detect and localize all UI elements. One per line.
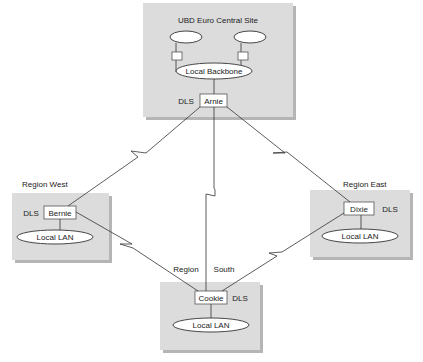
local-backbone-label: Local Backbone — [186, 67, 243, 76]
wan-link-arnie-cookie — [206, 107, 215, 291]
central-dls-label: DLS — [178, 97, 194, 106]
central-site-title: UBD Euro Central Site — [178, 16, 259, 25]
central-bridge-right — [238, 52, 248, 60]
wan-link-arnie-bernie — [68, 107, 200, 206]
west-site-title: Region West — [22, 180, 68, 189]
south-dls-label: DLS — [232, 294, 248, 303]
south-site-title-part1: Region — [173, 265, 198, 274]
central-site: UBD Euro Central Site Local Backbone Arn… — [143, 3, 296, 120]
central-bridge-left — [172, 52, 182, 60]
west-site: Region West Bernie DLS Local LAN — [12, 180, 112, 263]
east-site: Region East Dixie DLS Local LAN — [310, 180, 413, 260]
south-local-lan-label: Local LAN — [193, 321, 230, 330]
west-dls-label: DLS — [23, 209, 39, 218]
router-cookie-label: Cookie — [199, 294, 224, 303]
west-local-lan-label: Local LAN — [37, 233, 74, 242]
router-bernie-label: Bernie — [48, 209, 72, 218]
south-site-title-part2: South — [214, 265, 235, 274]
router-dixie-label: Dixie — [350, 205, 368, 214]
east-local-lan-label: Local LAN — [342, 232, 379, 241]
network-diagram: UBD Euro Central Site Local Backbone Arn… — [0, 0, 423, 362]
south-site: Region South Cookie DLS Local LAN — [160, 265, 263, 353]
central-segment-left — [170, 31, 202, 43]
router-arnie-label: Arnie — [204, 97, 223, 106]
central-segment-right — [234, 31, 266, 43]
wan-link-arnie-dixie — [227, 107, 350, 202]
east-site-title: Region East — [343, 180, 387, 189]
east-dls-label: DLS — [382, 205, 398, 214]
